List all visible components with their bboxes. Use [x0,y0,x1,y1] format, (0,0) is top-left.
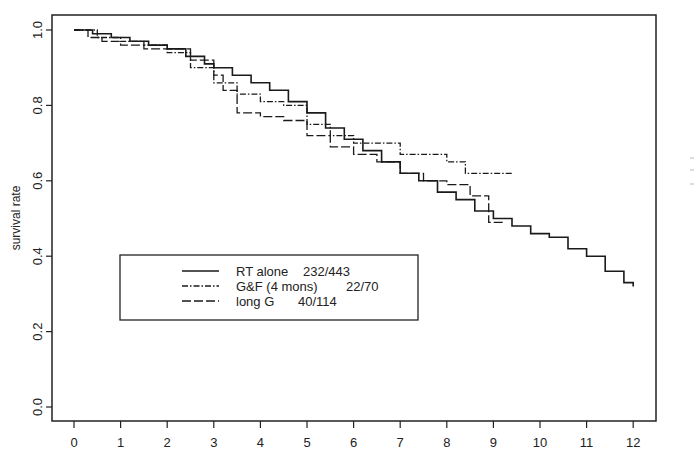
survival-chart: 0.00.20.40.60.81.0 0123456789101112 surv… [0,0,696,469]
y-tick-label: 0.4 [30,247,45,265]
y-tick-label: 0.6 [30,172,45,190]
legend-value-long-g: 40/114 [298,294,337,309]
series-long-g-line [74,30,503,222]
x-tick-label: 0 [70,435,77,450]
series-rt-alone-line [74,30,633,286]
y-axis-title: survival rate [9,185,23,250]
series-layer [74,30,633,286]
legend-value-rt-alone: 232/443 [303,264,350,279]
x-tick-label: 9 [490,435,497,450]
x-axis: 0123456789101112 [70,421,640,450]
y-tick-label: 0.0 [30,398,45,416]
x-tick-label: 8 [443,435,450,450]
x-tick-label: 10 [533,435,547,450]
x-tick-label: 6 [350,435,357,450]
x-tick-label: 7 [397,435,404,450]
x-tick-label: 3 [210,435,217,450]
plot-frame [52,15,656,421]
x-tick-label: 2 [164,435,171,450]
legend-label-long-g: long G [236,294,274,309]
y-tick-label: 1.0 [30,21,45,39]
legend-label-rt-alone: RT alone [236,264,288,279]
x-tick-label: 12 [626,435,640,450]
y-tick-label: 0.2 [30,323,45,341]
legend-label-gf: G&F (4 mons) [236,279,318,294]
legend-value-gf: 22/70 [346,279,379,294]
y-tick-label: 0.8 [30,96,45,114]
margin-marks [690,158,694,184]
x-tick-label: 11 [580,435,594,450]
x-tick-label: 4 [257,435,264,450]
x-tick-label: 1 [117,435,124,450]
x-tick-label: 5 [303,435,310,450]
legend: RT alone 232/443 G&F (4 mons) 22/70 long… [120,255,418,320]
y-axis: 0.00.20.40.60.81.0 [30,21,52,416]
